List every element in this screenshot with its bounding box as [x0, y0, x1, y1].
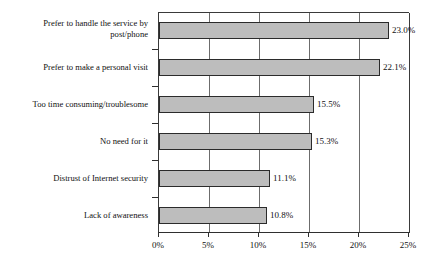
bar-value-3: 15.3% — [315, 133, 338, 150]
bar-5 — [159, 207, 267, 224]
gridline-10 — [259, 13, 260, 233]
gridline-25 — [409, 13, 410, 233]
x-axis-label-10: 10% — [238, 240, 278, 250]
bar-1 — [159, 59, 380, 76]
bar-value-2: 15.5% — [317, 96, 340, 113]
x-axis-tick-10 — [258, 232, 259, 237]
category-label-1: Prefer to make a personal visit — [0, 62, 148, 73]
x-axis-label-0: 0% — [138, 240, 178, 250]
bar-value-5: 10.8% — [270, 207, 293, 224]
category-label-2: Too time consuming/troublesome — [0, 99, 148, 110]
bar-4 — [159, 170, 270, 187]
gridline-5 — [209, 13, 210, 233]
bar-0 — [159, 22, 389, 39]
category-label-0: Prefer to handle the service by post/pho… — [0, 18, 148, 40]
x-axis-label-20: 20% — [338, 240, 378, 250]
bar-value-4: 11.1% — [273, 170, 296, 187]
bar-chart-figure: Prefer to handle the service by post/pho… — [0, 0, 429, 272]
x-axis-tick-15 — [308, 232, 309, 237]
gridline-20 — [359, 13, 360, 233]
x-axis-tick-20 — [358, 232, 359, 237]
bar-value-1: 22.1% — [383, 59, 406, 76]
x-axis-label-15: 15% — [288, 240, 328, 250]
bar-value-0: 23.0% — [392, 22, 415, 39]
category-label-4: Distrust of Internet security — [0, 173, 148, 184]
x-axis-label-5: 5% — [188, 240, 228, 250]
gridline-15 — [309, 13, 310, 233]
y-axis-tick-2 — [152, 123, 158, 124]
x-axis-tick-0 — [158, 232, 159, 237]
category-label-3: No need for it — [0, 136, 148, 147]
plot-area: 23.0% 22.1% 15.5% 15.3% 11.1% 10.8% — [158, 12, 409, 233]
category-label-5: Lack of awareness — [0, 210, 148, 221]
x-axis-tick-25 — [408, 232, 409, 237]
y-axis-tick-1 — [152, 86, 158, 87]
x-axis-label-25: 25% — [388, 240, 428, 250]
bar-2 — [159, 96, 314, 113]
y-axis-tick-0 — [152, 49, 158, 50]
x-axis-tick-5 — [208, 232, 209, 237]
y-axis-tick-4 — [152, 197, 158, 198]
category-axis-labels: Prefer to handle the service by post/pho… — [0, 12, 153, 232]
y-axis-tick-3 — [152, 160, 158, 161]
bar-3 — [159, 133, 312, 150]
x-axis-line — [158, 232, 409, 233]
